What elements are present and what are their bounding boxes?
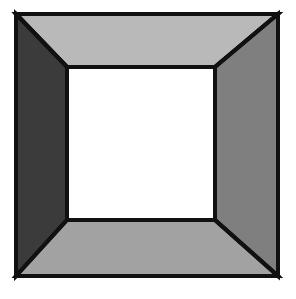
figure-canvas (0, 0, 296, 299)
center-opening (67, 67, 215, 220)
beveled-frame-diagram (0, 0, 296, 299)
